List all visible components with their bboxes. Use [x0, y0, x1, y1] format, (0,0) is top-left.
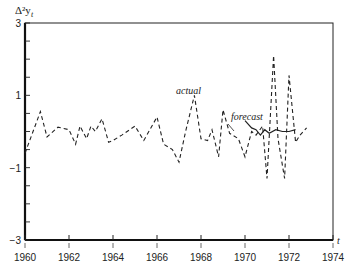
forecast-annotation: forecast — [231, 111, 263, 122]
svg-text:1972: 1972 — [278, 252, 301, 263]
svg-text:−3: −3 — [10, 235, 22, 246]
forecast-annotation-leader — [228, 124, 234, 131]
svg-text:1974: 1974 — [322, 252, 345, 263]
actual-series-line — [25, 56, 307, 179]
actual-annotation: actual — [176, 85, 201, 96]
svg-text:1968: 1968 — [190, 252, 213, 263]
y-axis-label: Δ²yt — [15, 4, 34, 19]
svg-text:3: 3 — [15, 18, 21, 29]
svg-text:1: 1 — [15, 90, 21, 101]
svg-text:1964: 1964 — [102, 252, 125, 263]
y-ticks: 31−1−3 — [10, 18, 22, 246]
svg-text:1970: 1970 — [234, 252, 257, 263]
svg-text:1966: 1966 — [146, 252, 169, 263]
x-axis-label: t — [337, 235, 340, 246]
chart: 19601962196419661968197019721974 31−1−3 … — [0, 0, 348, 272]
svg-text:−1: −1 — [10, 163, 22, 174]
svg-text:1960: 1960 — [14, 252, 37, 263]
svg-text:1962: 1962 — [58, 252, 81, 263]
